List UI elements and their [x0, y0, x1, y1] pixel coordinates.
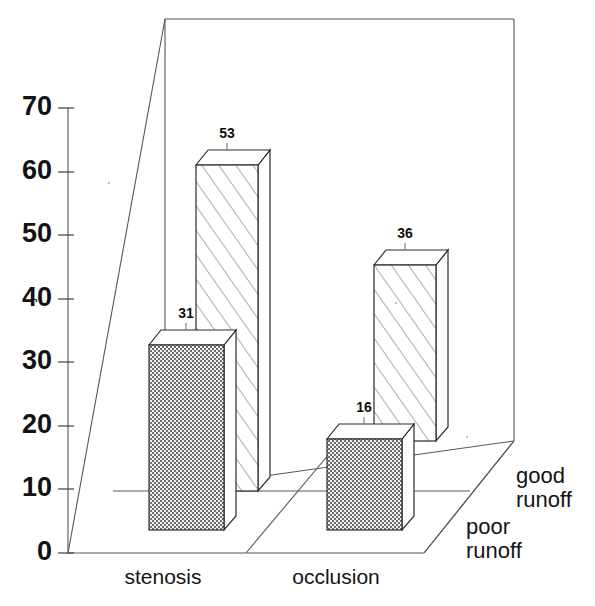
bar-chart-3d: 70 60 50 40 30 20 10 0 53 — [0, 0, 595, 606]
series-label-good-line2: runoff — [516, 487, 573, 512]
speck-2 — [34, 300, 36, 302]
bar-occlusion-poor-value: 16 — [356, 399, 372, 415]
y-tick-label-60: 60 — [22, 155, 52, 185]
y-tick-label-70: 70 — [22, 91, 52, 121]
bar-occlusion-poor-front — [327, 439, 402, 530]
chart-canvas: 70 60 50 40 30 20 10 0 53 — [0, 0, 595, 606]
speck-3 — [466, 436, 468, 438]
y-tick-label-0: 0 — [37, 536, 52, 566]
bar-stenosis-poor-value: 31 — [178, 305, 194, 321]
bar-stenosis-poor-front — [149, 345, 224, 530]
speck-4 — [395, 302, 397, 304]
bar-stenosis-poor-top — [149, 330, 236, 345]
bar-stenosis-poor[interactable]: 31 — [149, 305, 236, 530]
bar-occlusion-good-side — [436, 250, 448, 441]
series-labels: good runoff poor runoff — [466, 463, 573, 563]
speck-1 — [108, 182, 110, 184]
x-axis-label-stenosis: stenosis — [124, 565, 201, 588]
bar-occlusion-good[interactable]: 36 — [374, 225, 448, 441]
series-label-good-line1: good — [516, 463, 565, 488]
bar-occlusion-good-value: 36 — [397, 225, 413, 241]
series-label-poor-line1: poor — [466, 514, 510, 539]
bar-occlusion-good-top — [374, 250, 448, 265]
y-tick-label-20: 20 — [22, 409, 52, 439]
y-tick-label-40: 40 — [22, 282, 52, 312]
bar-stenosis-good-top — [196, 150, 270, 165]
x-axis-labels: stenosis occlusion — [124, 565, 379, 588]
y-axis-ticks: 70 60 50 40 30 20 10 0 — [22, 91, 74, 566]
bar-stenosis-poor-side — [224, 330, 236, 530]
bar-occlusion-poor-side — [402, 424, 414, 530]
bar-occlusion-poor-top — [327, 424, 414, 439]
y-tick-label-50: 50 — [22, 218, 52, 248]
x-axis-label-occlusion: occlusion — [292, 565, 380, 588]
bar-occlusion-good-front — [374, 265, 436, 441]
bar-stenosis-good-value: 53 — [219, 125, 235, 141]
y-tick-label-30: 30 — [22, 345, 52, 375]
y-tick-label-10: 10 — [22, 472, 52, 502]
series-label-poor-line2: runoff — [466, 538, 523, 563]
bar-stenosis-good-side — [258, 150, 270, 491]
